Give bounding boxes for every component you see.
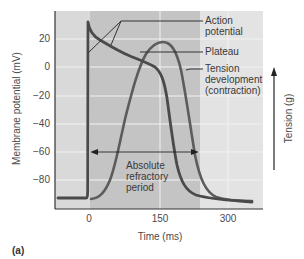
label-refractory-line2: refractory bbox=[126, 171, 168, 182]
tension-axis-arrow bbox=[271, 67, 277, 170]
label-absolute-refractory-period: Absolute refractory period bbox=[126, 160, 168, 193]
y-tick-minus-80: −80 bbox=[26, 174, 50, 185]
label-refractory-line1: Absolute bbox=[126, 160, 168, 171]
label-action-potential-line2: potential bbox=[205, 26, 243, 37]
panel-label: (a) bbox=[12, 245, 24, 256]
x-tick-0: 0 bbox=[79, 213, 99, 224]
y-tick-minus-40: −40 bbox=[26, 118, 50, 129]
label-action-potential-line1: Action bbox=[205, 15, 243, 26]
x-axis-label: Time (ms) bbox=[120, 231, 200, 242]
y-tick-20: 20 bbox=[30, 33, 50, 44]
y-tick-0: 0 bbox=[30, 61, 50, 72]
x-tick-150: 150 bbox=[148, 213, 172, 224]
tension-axis-label: Tension (g) bbox=[283, 89, 294, 149]
y-tick-minus-20: −20 bbox=[26, 90, 50, 101]
y-tick-minus-60: −60 bbox=[26, 146, 50, 157]
label-tension-development: Tension development (contraction) bbox=[205, 63, 262, 96]
x-tick-300: 300 bbox=[216, 213, 240, 224]
label-plateau: Plateau bbox=[205, 46, 239, 57]
plot-background-right bbox=[200, 11, 263, 209]
label-tension-line3: (contraction) bbox=[205, 85, 262, 96]
y-axis-label: Membrane potential (mV) bbox=[11, 49, 22, 169]
label-tension-line1: Tension bbox=[205, 63, 262, 74]
label-tension-line2: development bbox=[205, 74, 262, 85]
label-refractory-line3: period bbox=[126, 182, 168, 193]
label-action-potential: Action potential bbox=[205, 15, 243, 37]
